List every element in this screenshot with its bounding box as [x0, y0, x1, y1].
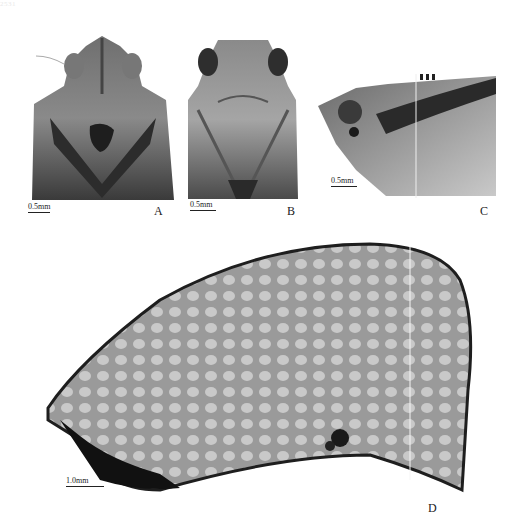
scale-bar-b-label: 0.5mm — [190, 200, 212, 209]
panel-a-image — [30, 34, 176, 200]
panel-b-image — [188, 40, 298, 199]
scale-bar-c-label: 0.5mm — [331, 176, 353, 185]
scale-bar-c: 0.5mm — [331, 176, 357, 187]
panel-d-image — [40, 240, 476, 498]
scale-bar-a-label: 0.5mm — [28, 202, 50, 211]
scale-bar-d-line — [66, 486, 104, 487]
scale-bar-b-line — [190, 210, 216, 211]
scale-bar-a: 0.5mm — [28, 202, 50, 213]
panel-label-d: D — [428, 502, 437, 514]
panel-label-b: B — [287, 205, 295, 217]
scale-bar-c-line — [331, 186, 357, 187]
scale-bar-a-line — [28, 212, 50, 213]
cropped-header-text: 2531 — [0, 0, 16, 8]
scale-bar-d-label: 1.0mm — [66, 476, 88, 485]
panel-label-a: A — [154, 205, 163, 217]
scale-bar-b: 0.5mm — [190, 200, 216, 211]
scale-bar-d: 1.0mm — [66, 476, 104, 487]
panel-label-c: C — [480, 205, 488, 217]
